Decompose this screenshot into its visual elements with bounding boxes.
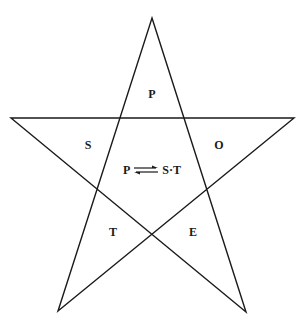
point-label-lower-right: E — [189, 226, 197, 238]
point-label-upper-right: O — [214, 139, 223, 151]
equilibrium-arrows-icon — [133, 165, 159, 175]
center-equilibrium: P S·T — [123, 164, 181, 176]
point-label-top: P — [148, 88, 155, 100]
equation-left: P — [123, 164, 130, 176]
equation-right: S·T — [162, 164, 181, 176]
point-label-lower-left: T — [109, 226, 117, 238]
pentagram-star — [0, 0, 304, 323]
point-label-upper-left: S — [85, 139, 92, 151]
pentagram-diagram: P S O T E P S·T — [0, 0, 304, 323]
